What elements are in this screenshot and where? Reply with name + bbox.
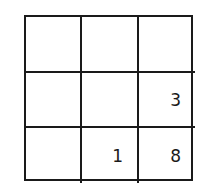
cell-r3-c1 [26,128,82,183]
cell-r1-c1 [26,17,82,73]
cell-r2-c3: 3 [139,73,195,128]
number-grid: 3 1 8 [24,15,193,181]
cell-r3-c3: 8 [139,128,195,183]
cell-r2-c1 [26,73,82,128]
cell-r1-c2 [82,17,139,73]
cell-r2-c2 [82,73,139,128]
cell-r1-c3 [139,17,195,73]
cell-r3-c2: 1 [82,128,139,183]
